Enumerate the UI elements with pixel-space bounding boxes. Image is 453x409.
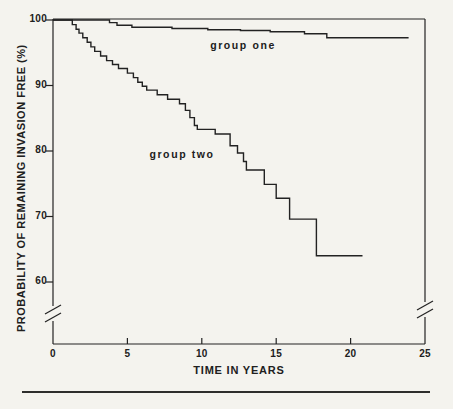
y-tick-label-70: 70 bbox=[21, 210, 47, 222]
axis-break-mark bbox=[45, 305, 61, 314]
series-label-group-two: group two bbox=[136, 148, 228, 160]
x-tick-label-25: 25 bbox=[410, 348, 440, 360]
y-tick-label-100: 100 bbox=[21, 13, 47, 25]
x-tick-label-0: 0 bbox=[38, 348, 68, 360]
x-axis-title: TIME IN YEARS bbox=[174, 364, 304, 376]
x-tick-label-5: 5 bbox=[112, 348, 142, 360]
x-tick-label-20: 20 bbox=[336, 348, 366, 360]
axis-break-mark bbox=[417, 309, 433, 318]
page-divider-line bbox=[22, 391, 430, 393]
y-tick-label-90: 90 bbox=[21, 79, 47, 91]
x-tick-label-10: 10 bbox=[187, 348, 217, 360]
figure-page: PROBABILITY OF REMAINING INVASION FREE (… bbox=[0, 0, 453, 409]
series-label-group-one: group one bbox=[197, 39, 289, 51]
curve-group-two bbox=[53, 20, 363, 256]
y-tick-label-80: 80 bbox=[21, 144, 47, 156]
y-tick-label-60: 60 bbox=[21, 275, 47, 287]
x-tick-label-15: 15 bbox=[261, 348, 291, 360]
axis-break-mark bbox=[417, 301, 433, 310]
curve-group-one bbox=[53, 20, 409, 38]
axis-break-mark bbox=[45, 313, 61, 322]
